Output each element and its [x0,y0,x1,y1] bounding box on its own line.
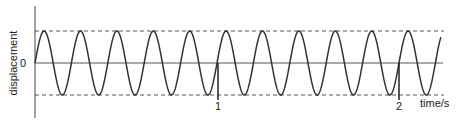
x-tick-label-1: 1 [215,100,221,112]
displacement-time-chart: 1 2 time/s 0 displacement [0,0,456,124]
x-axis-label: time/s [420,97,450,109]
x-tick-label-2: 2 [396,100,402,112]
y-zero-label: 0 [20,57,26,69]
y-axis-label: displacement [7,31,19,96]
